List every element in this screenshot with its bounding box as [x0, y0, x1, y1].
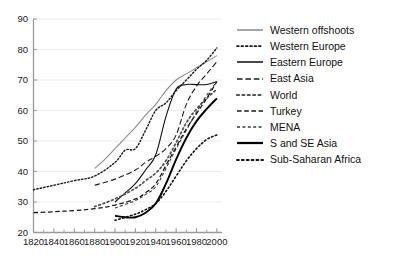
x-tick-label: 1880: [84, 236, 105, 247]
x-tick-label: 1940: [145, 236, 166, 247]
x-tick-label: 1840: [43, 236, 64, 247]
plot-area: 1820184018601880190019201940196019802000…: [0, 0, 232, 267]
x-tick-label: 1960: [166, 236, 187, 247]
y-tick-label: 30: [17, 196, 28, 207]
legend-swatch-dotted-coarse: [236, 154, 264, 166]
legend-swatch-solid: [236, 56, 264, 68]
x-tick-label: 1860: [64, 236, 85, 247]
legend-label: Turkey: [270, 106, 302, 117]
x-tick-label: 2000: [206, 236, 227, 247]
y-tick-label: 90: [17, 13, 28, 24]
gridlines: [34, 19, 223, 202]
legend-swatch-dotted-coarse: [236, 89, 264, 101]
series-line: [95, 56, 217, 169]
legend-label: Western Europe: [270, 41, 346, 52]
y-tick-label: 70: [17, 74, 28, 85]
data-series-layer: [34, 48, 217, 220]
x-tick-label: 1920: [125, 236, 146, 247]
legend-item[interactable]: S and SE Asia: [236, 135, 419, 151]
y-tick-label: 40: [17, 166, 28, 177]
legend-swatch-solid: [236, 24, 264, 36]
legend-label: East Asia: [270, 73, 314, 84]
series-line: [95, 89, 217, 206]
legend-label: World: [270, 90, 297, 101]
legend-swatch-dashed-short: [236, 121, 264, 133]
y-tick-label: 60: [17, 105, 28, 116]
legend-item[interactable]: Sub-Saharan Africa: [236, 152, 419, 168]
series-line: [115, 135, 217, 220]
legend-swatch-solid: [236, 137, 264, 149]
y-tick-label: 50: [17, 135, 28, 146]
legend-swatch-dashed-medium: [236, 105, 264, 117]
y-tick-label: 20: [17, 227, 28, 238]
x-axis-tick-labels: 1820184018601880190019201940196019802000: [23, 236, 228, 247]
legend-item[interactable]: East Asia: [236, 71, 419, 87]
legend-label: Sub-Saharan Africa: [270, 154, 361, 165]
y-axis-tick-labels: 2030405060708090: [17, 13, 28, 238]
legend-item[interactable]: Turkey: [236, 103, 419, 119]
legend-item[interactable]: Western Europe: [236, 38, 419, 54]
chart-container: 1820184018601880190019201940196019802000…: [0, 0, 419, 267]
legend-item[interactable]: World: [236, 87, 419, 103]
legend-label: Western offshoots: [270, 25, 354, 36]
chart-legend: Western offshootsWestern EuropeEastern E…: [236, 22, 419, 168]
legend-item[interactable]: Western offshoots: [236, 22, 419, 38]
legend-swatch-dashed-long: [236, 73, 264, 85]
y-tick-label: 80: [17, 44, 28, 55]
x-tick-label: 1900: [104, 236, 125, 247]
legend-item[interactable]: MENA: [236, 119, 419, 135]
line-chart-svg: 1820184018601880190019201940196019802000…: [0, 0, 232, 267]
legend-label: MENA: [270, 122, 300, 133]
legend-swatch-dotted-fine: [236, 40, 264, 52]
x-tick-label: 1980: [186, 236, 207, 247]
legend-label: S and SE Asia: [270, 138, 337, 149]
legend-label: Eastern Europe: [270, 57, 343, 68]
legend-item[interactable]: Eastern Europe: [236, 54, 419, 70]
